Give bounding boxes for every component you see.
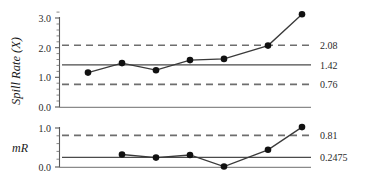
moving-range-data-line	[122, 127, 302, 166]
individuals-ytick-3: 3.0	[39, 13, 52, 24]
moving-range-panel: mR 1.0 0.0	[12, 123, 348, 173]
data-point	[265, 42, 272, 49]
individuals-ucl-label: 2.08	[320, 40, 338, 51]
data-point	[221, 163, 228, 170]
data-point	[119, 60, 126, 67]
data-point	[153, 67, 160, 74]
moving-range-ytick-1: 1.0	[39, 123, 52, 134]
individuals-lcl-label: 0.76	[320, 79, 338, 90]
data-point	[299, 11, 306, 18]
moving-range-major-ticks	[55, 128, 60, 167]
data-point	[221, 56, 228, 63]
individuals-ytick-1: 1.0	[39, 72, 52, 83]
individuals-axis-title: Spill Rate (X)	[9, 37, 23, 105]
data-point	[299, 124, 306, 131]
individuals-major-ticks	[55, 18, 60, 107]
moving-range-ytick-0: 0.0	[39, 162, 52, 173]
control-chart-figure: Spill Rate (X) 3.0 2.0 1.0 0.0	[0, 0, 373, 176]
individuals-panel: Spill Rate (X) 3.0 2.0 1.0 0.0	[9, 11, 338, 113]
moving-range-cl-label: 0.2475	[320, 152, 348, 163]
individuals-cl-label: 1.42	[320, 60, 338, 71]
individuals-ytick-2: 2.0	[39, 43, 52, 54]
data-point	[85, 69, 92, 76]
xmr-chart-canvas: Spill Rate (X) 3.0 2.0 1.0 0.0	[0, 0, 373, 176]
individuals-ytick-0: 0.0	[39, 102, 52, 113]
data-point	[153, 154, 160, 161]
data-point	[119, 151, 126, 158]
individuals-data-markers	[85, 11, 306, 76]
data-point	[265, 147, 272, 154]
moving-range-ucl-label: 0.81	[320, 130, 338, 141]
data-point	[187, 57, 194, 64]
moving-range-axis-title: mR	[12, 141, 29, 155]
data-point	[187, 152, 194, 159]
